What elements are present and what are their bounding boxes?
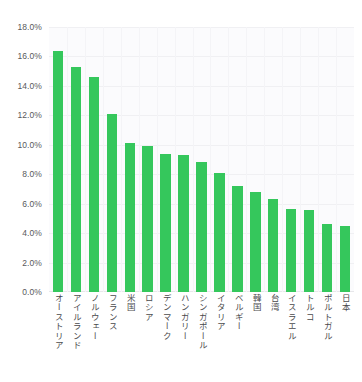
x-tick-label: オーストリア: [54, 294, 63, 350]
y-tick-label: 16.0%: [17, 51, 42, 61]
x-tick-label: ベルギー: [233, 294, 242, 332]
x-tick-label: ノルウェー: [90, 294, 99, 341]
bar: [232, 186, 242, 292]
bar: [250, 192, 260, 292]
bar: [107, 114, 117, 292]
bar-series: [49, 27, 354, 292]
x-tick-label: ロシア: [143, 294, 152, 322]
x-tick-label: ポルトガル: [323, 294, 332, 341]
bar: [304, 210, 314, 292]
y-axis: 18.0%16.0%14.0%12.0%10.0%8.0%6.0%4.0%2.0…: [0, 0, 45, 382]
x-tick-label: 台湾: [269, 294, 278, 313]
y-tick-label: 0.0%: [22, 287, 42, 297]
x-tick-label: イタリア: [215, 294, 224, 332]
bar: [71, 67, 81, 292]
x-axis: オーストリアアイルランドノルウェーフランス米国ロシアデンマークハンガリーシンガポ…: [49, 294, 354, 382]
bar: [322, 224, 332, 292]
y-tick-label: 18.0%: [17, 22, 42, 32]
x-tick-label: デンマーク: [161, 294, 170, 341]
x-tick-label: 米国: [125, 294, 134, 313]
x-tick-label: アイルランド: [72, 294, 81, 350]
x-tick-label: フランス: [108, 294, 117, 332]
bar-chart: 18.0%16.0%14.0%12.0%10.0%8.0%6.0%4.0%2.0…: [0, 0, 362, 382]
bar: [196, 162, 206, 292]
y-tick-label: 8.0%: [22, 169, 42, 179]
x-tick-label: イスラエル: [287, 294, 296, 341]
bar: [340, 226, 350, 292]
bar: [125, 143, 135, 292]
x-tick-label: 日本: [341, 294, 350, 313]
x-tick-label: シンガポール: [197, 294, 206, 350]
y-tick-label: 14.0%: [17, 81, 42, 91]
bar: [178, 155, 188, 292]
y-tick-label: 6.0%: [22, 199, 42, 209]
y-tick-label: 4.0%: [22, 228, 42, 238]
bar: [214, 173, 224, 292]
bar: [268, 199, 278, 292]
x-tick-label: 韓国: [251, 294, 260, 313]
bar: [286, 209, 296, 292]
x-tick-label: トルコ: [305, 294, 314, 322]
y-tick-label: 10.0%: [17, 140, 42, 150]
bar: [142, 146, 152, 292]
bar: [53, 51, 63, 292]
plot-area: [49, 27, 354, 292]
x-tick-label: ハンガリー: [179, 294, 188, 341]
bar: [160, 154, 170, 292]
y-tick-label: 2.0%: [22, 258, 42, 268]
bar: [89, 77, 99, 292]
y-tick-label: 12.0%: [17, 110, 42, 120]
